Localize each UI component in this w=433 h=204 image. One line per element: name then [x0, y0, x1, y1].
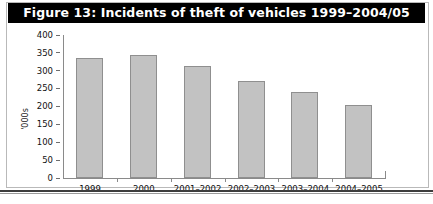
y-tick-label: 50: [42, 156, 53, 165]
y-tick-label: 350: [37, 49, 53, 58]
bar-2000[interactable]: [130, 55, 157, 178]
bar-slot: [278, 23, 332, 178]
tick-mark-icon: [56, 70, 60, 71]
y-tick-100: 100: [26, 137, 60, 147]
plot-area: '000s 400 350 300 250 200: [0, 23, 433, 204]
y-tick-0: 0: [26, 173, 60, 183]
y-tick-label: 400: [37, 31, 53, 40]
x-tick-mark-icon: [225, 178, 226, 182]
bottom-rule: [0, 190, 433, 192]
tick-mark-icon: [56, 124, 60, 125]
y-tick-label: 150: [37, 120, 53, 129]
y-tick-200: 200: [26, 102, 60, 112]
y-tick-150: 150: [26, 119, 60, 129]
figure-title-bar: Figure 13: Incidents of theft of vehicle…: [8, 3, 425, 23]
y-tick-350: 350: [26, 48, 60, 58]
x-tick-mark-icon: [117, 178, 118, 182]
y-tick-label: 250: [37, 84, 53, 93]
bar-2001-2002[interactable]: [184, 66, 211, 178]
figure-title: Figure 13: Incidents of theft of vehicle…: [23, 7, 410, 20]
bar-series: [63, 23, 386, 178]
bottom-rule-secondary: [0, 193, 433, 194]
tick-mark-icon: [56, 160, 60, 161]
bar-slot: [332, 23, 386, 178]
x-tick-mark-icon: [278, 178, 279, 182]
tick-mark-icon: [56, 106, 60, 107]
bar-slot: [63, 23, 117, 178]
x-tick-mark-icon: [332, 178, 333, 182]
y-tick-label: 300: [37, 67, 53, 76]
y-tick-300: 300: [26, 66, 60, 76]
tick-mark-icon: [56, 88, 60, 89]
tick-mark-icon: [56, 35, 60, 36]
y-axis-ticks: 400 350 300 250 200 150: [26, 23, 60, 204]
bar-2002-2003[interactable]: [238, 81, 265, 178]
y-tick-label: 100: [37, 138, 53, 147]
figure-container: Figure 13: Incidents of theft of vehicle…: [0, 0, 433, 204]
y-tick-400: 400: [26, 30, 60, 40]
y-tick-label: 0: [48, 174, 53, 183]
bar-slot: [117, 23, 171, 178]
bar-slot: [171, 23, 225, 178]
bar-2003-2004[interactable]: [291, 92, 318, 178]
tick-mark-icon: [56, 52, 60, 53]
x-tick-mark-icon: [171, 178, 172, 182]
tick-mark-icon: [56, 142, 60, 143]
tick-mark-icon: [56, 178, 60, 179]
y-tick-250: 250: [26, 84, 60, 94]
x-axis-labels: 1999 2000 2001–2002 2002–2003 2003–2004 …: [63, 185, 386, 199]
bar-slot: [225, 23, 279, 178]
bar-1999[interactable]: [76, 58, 103, 178]
y-tick-50: 50: [26, 155, 60, 165]
bar-2004-2005[interactable]: [345, 105, 372, 178]
y-tick-label: 200: [37, 102, 53, 111]
